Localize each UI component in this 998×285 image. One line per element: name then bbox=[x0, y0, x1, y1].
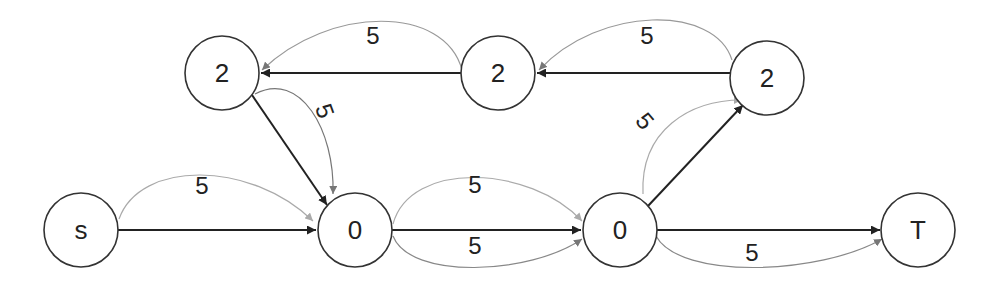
node-t-label: T bbox=[910, 215, 926, 245]
node-s[interactable]: s bbox=[44, 193, 118, 267]
node-c-label: 2 bbox=[215, 58, 229, 88]
edge-label-a-b-straight: 5 bbox=[468, 232, 481, 259]
node-s-label: s bbox=[75, 215, 88, 245]
edge-label-s-a-curve: 5 bbox=[195, 172, 208, 199]
node-a-label: 0 bbox=[348, 215, 362, 245]
edge-d-c-curve bbox=[262, 21, 462, 70]
edge-e-d-curve bbox=[539, 20, 732, 70]
edge-s-a-curve bbox=[119, 175, 313, 221]
edge-b-e-straight bbox=[648, 105, 743, 206]
edge-label-d-c-curve: 5 bbox=[366, 22, 379, 49]
node-b[interactable]: 0 bbox=[583, 193, 657, 267]
node-d[interactable]: 2 bbox=[461, 36, 535, 110]
edge-label-a-b-curve-up: 5 bbox=[468, 171, 481, 198]
node-d-label: 2 bbox=[491, 58, 505, 88]
edge-label-b-e-curve: 5 bbox=[630, 107, 659, 135]
nodes-layer: s 0 0 T 2 2 2 bbox=[44, 36, 955, 267]
node-b-label: 0 bbox=[613, 215, 627, 245]
edge-a-b-curve-up bbox=[393, 177, 582, 224]
edge-label-b-t-curve: 5 bbox=[745, 239, 758, 266]
edge-a-b-curve-down bbox=[393, 236, 582, 268]
edge-label-c-a-curve: 5 bbox=[310, 100, 340, 122]
flow-network-diagram: 5 5 5 5 5 5 5 5 s 0 0 T 2 2 bbox=[0, 0, 998, 285]
node-t[interactable]: T bbox=[881, 193, 955, 267]
node-a[interactable]: 0 bbox=[318, 193, 392, 267]
node-e[interactable]: 2 bbox=[730, 41, 804, 115]
node-c[interactable]: 2 bbox=[185, 36, 259, 110]
node-e-label: 2 bbox=[760, 63, 774, 93]
edge-label-e-d-curve: 5 bbox=[640, 22, 653, 49]
edge-b-t-curve bbox=[656, 236, 882, 268]
